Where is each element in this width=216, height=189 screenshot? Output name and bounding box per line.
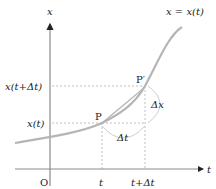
x-axis-label: t	[207, 164, 212, 175]
diagram-canvas: x t O x = x(t) t t+Δt x(t) x(t+Δt) P P′ …	[0, 0, 216, 189]
origin-label: O	[40, 177, 48, 188]
curve-label: x = x(t)	[166, 6, 204, 17]
tick-t-plus-dt: t+Δt	[131, 177, 156, 188]
tick-t: t	[99, 177, 104, 188]
y-axis-label: x	[47, 6, 53, 17]
point-p-prime-label: P′	[136, 74, 146, 85]
chord-p-p-prime	[102, 88, 144, 123]
delta-t-label: Δt	[116, 132, 129, 143]
point-p-label: P	[95, 111, 102, 122]
delta-x-label: Δx	[150, 99, 164, 110]
tick-x-t-plus-dt: x(t+Δt)	[5, 81, 42, 92]
tick-x-t: x(t)	[27, 118, 45, 129]
